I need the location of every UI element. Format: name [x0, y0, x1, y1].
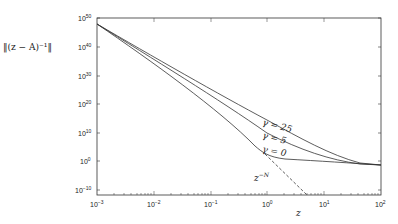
x-tick-labels: 10−3 10−2 10−1 100 101 102 [90, 199, 386, 208]
curves [97, 24, 381, 195]
y-axis-label: ‖(z − A)⁻¹‖ [3, 42, 52, 53]
svg-text:1040: 1040 [78, 42, 92, 51]
svg-text:101: 101 [319, 199, 330, 208]
curve-gamma-5 [97, 24, 381, 165]
svg-text:1020: 1020 [78, 99, 92, 108]
resolvent-norm-chart: 1050 1040 1030 1020 1010 100 10−10 10−3 … [0, 0, 398, 224]
svg-text:10−2: 10−2 [147, 199, 161, 208]
y-axis-ticks [97, 18, 381, 190]
svg-text:1050: 1050 [78, 13, 92, 22]
svg-text:102: 102 [375, 199, 386, 208]
curve-gamma-25 [97, 24, 381, 165]
plot-frame [97, 18, 381, 195]
x-axis-ticks [114, 18, 378, 195]
svg-text:10−10: 10−10 [75, 185, 91, 194]
svg-text:1030: 1030 [78, 71, 92, 80]
annotation-gamma-0: γ = 0 [262, 144, 288, 158]
svg-text:1010: 1010 [78, 128, 92, 137]
svg-text:100: 100 [80, 156, 91, 165]
svg-text:10−1: 10−1 [204, 199, 218, 208]
curve-gamma-0 [97, 24, 381, 165]
svg-text:100: 100 [262, 199, 273, 208]
y-tick-labels: 1050 1040 1030 1020 1010 100 10−10 [75, 13, 92, 194]
annotation-z-minus-N: z−N [253, 171, 270, 183]
x-axis-label: z [295, 208, 301, 218]
svg-text:10−3: 10−3 [90, 199, 104, 208]
